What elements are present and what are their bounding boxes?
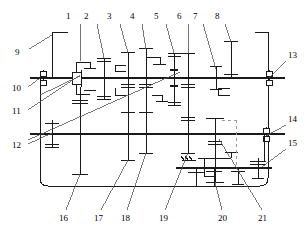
leader-lines-group [28, 24, 286, 210]
leader-17 [101, 160, 128, 210]
leader-18 [127, 153, 146, 210]
leader-2 [97, 24, 104, 58]
label-12: 12 [12, 140, 21, 150]
label-8: 8 [215, 11, 220, 21]
label-6: 6 [177, 11, 182, 21]
leader-21 [219, 139, 262, 210]
gear-station-6 [181, 53, 195, 153]
diagram-canvas: 1 2 3 4 5 6 7 8 9 10 11 12 13 14 15 16 1… [0, 0, 308, 232]
leader-4 [142, 24, 146, 49]
label-18: 18 [121, 213, 131, 223]
leader-16 [66, 174, 80, 210]
label-4: 4 [130, 11, 135, 21]
leader-8 [225, 24, 231, 42]
label-3: 3 [107, 11, 112, 21]
label-10: 10 [12, 83, 22, 93]
label-5: 5 [154, 11, 159, 21]
gear-station-7 [198, 66, 238, 182]
output-gear-right [250, 134, 266, 178]
label-13: 13 [288, 50, 298, 60]
leader-13 [269, 61, 286, 78]
gear-station-4 [139, 48, 168, 153]
idler-gear-lower [206, 168, 222, 186]
label-14: 14 [288, 114, 298, 124]
leader-3 [120, 24, 128, 53]
ground-hatch-icon [181, 156, 196, 160]
label-16: 16 [59, 213, 69, 223]
label-15: 15 [288, 138, 298, 148]
leader-5 [166, 24, 174, 53]
leader-7 [203, 24, 216, 69]
label-9: 9 [15, 47, 20, 57]
gear-station-3 [115, 52, 135, 160]
output-gear-mid [188, 168, 204, 186]
label-group: 1 2 3 4 5 6 7 8 9 10 11 12 13 14 15 16 1… [12, 11, 298, 223]
label-7: 7 [193, 11, 198, 21]
label-19: 19 [159, 213, 169, 223]
leader-10 [28, 78, 40, 87]
label-1: 1 [66, 11, 71, 21]
leader-15 [262, 149, 286, 167]
label-20: 20 [218, 213, 228, 223]
leader-9 [29, 35, 52, 49]
label-11: 11 [12, 106, 21, 116]
label-17: 17 [94, 213, 104, 223]
label-2: 2 [84, 11, 89, 21]
label-21: 21 [258, 213, 267, 223]
housing-outline [40, 78, 268, 186]
leader-11 [28, 75, 80, 110]
gearbox-schematic-svg: 1 2 3 4 5 6 7 8 9 10 11 12 13 14 15 16 1… [0, 0, 308, 232]
gear-station-8 [218, 41, 238, 95]
leader-19 [165, 153, 188, 210]
